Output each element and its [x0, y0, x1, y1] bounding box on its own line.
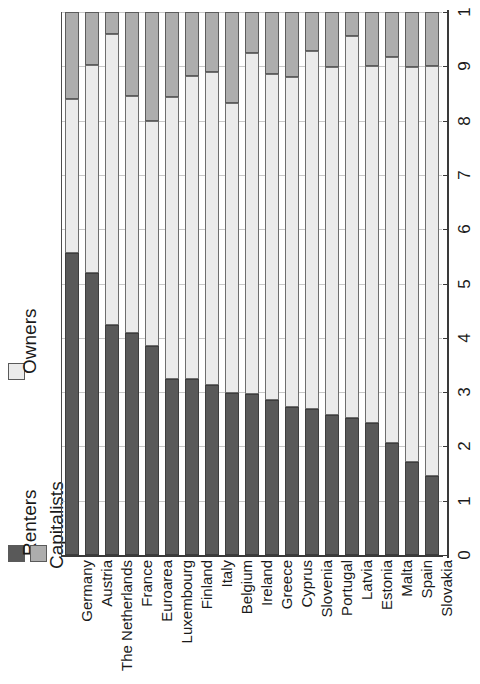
bar-segment-renters — [225, 393, 239, 555]
bar-segment-owners — [185, 76, 199, 379]
bar-latvia[interactable] — [345, 12, 359, 555]
value-axis-tick-label: 3 — [455, 372, 475, 412]
bar-segment-owners — [205, 72, 219, 385]
value-axis-tick — [443, 338, 448, 339]
value-axis-tick — [443, 501, 448, 502]
category-label-italy: Italy — [218, 560, 235, 684]
bar-segment-capitalists — [165, 12, 179, 97]
category-label-france: France — [138, 560, 155, 684]
bar-slovakia[interactable] — [425, 12, 439, 555]
value-axis-tick — [443, 392, 448, 393]
bar-the-netherlands[interactable] — [105, 12, 119, 555]
bar-portugal[interactable] — [325, 12, 339, 555]
bar-segment-capitalists — [185, 12, 199, 76]
legend-label-owners: Owners — [19, 224, 41, 374]
category-label-spain: Spain — [418, 560, 435, 684]
bar-segment-renters — [65, 253, 79, 555]
value-axis-tick — [443, 121, 448, 122]
bar-segment-owners — [165, 97, 179, 379]
category-label-slovenia: Slovenia — [318, 560, 335, 684]
bar-segment-renters — [125, 333, 139, 555]
bar-spain[interactable] — [405, 12, 419, 555]
bar-segment-capitalists — [125, 12, 139, 96]
bar-greece[interactable] — [265, 12, 279, 555]
bar-segment-capitalists — [105, 12, 119, 34]
category-label-belgium: Belgium — [238, 560, 255, 684]
bar-segment-owners — [305, 51, 319, 409]
bar-segment-capitalists — [325, 12, 339, 67]
category-label-luxembourg: Luxembourg — [178, 560, 195, 684]
bar-segment-capitalists — [305, 12, 319, 51]
value-axis-tick-label: 1 — [455, 481, 475, 521]
stacked-bar-chart: Renters Owners Capitalists 01234567891 G… — [0, 0, 480, 684]
category-label-finland: Finland — [198, 560, 215, 684]
bar-germany[interactable] — [65, 12, 79, 555]
bar-segment-renters — [385, 443, 399, 555]
value-axis-tick — [443, 555, 448, 556]
bar-segment-owners — [285, 77, 299, 407]
category-label-greece: Greece — [278, 560, 295, 684]
category-label-portugal: Portugal — [338, 560, 355, 684]
value-axis-tick — [443, 175, 448, 176]
bar-segment-owners — [345, 36, 359, 418]
bar-segment-renters — [285, 407, 299, 555]
bar-segment-owners — [245, 53, 259, 393]
category-label-slovakia: Slovakia — [438, 560, 455, 684]
value-axis-tick-label: 9 — [455, 46, 475, 86]
bar-segment-capitalists — [365, 12, 379, 66]
bar-segment-owners — [405, 67, 419, 461]
value-axis-tick-label: 0 — [455, 535, 475, 575]
bar-series-container — [62, 12, 442, 555]
bar-segment-renters — [205, 385, 219, 555]
bar-segment-owners — [325, 67, 339, 415]
value-axis-tick-label: 7 — [455, 155, 475, 195]
bar-segment-owners — [65, 99, 79, 253]
bar-segment-renters — [85, 273, 99, 555]
bar-segment-capitalists — [245, 12, 259, 53]
value-axis-tick-label: 4 — [455, 318, 475, 358]
value-axis-tick — [443, 284, 448, 285]
category-label-estonia: Estonia — [378, 560, 395, 684]
bar-segment-renters — [305, 409, 319, 555]
bar-segment-owners — [385, 57, 399, 443]
bar-segment-capitalists — [385, 12, 399, 57]
bar-segment-renters — [265, 400, 279, 555]
bar-segment-renters — [425, 476, 439, 555]
bar-segment-owners — [425, 66, 439, 476]
bar-segment-capitalists — [85, 12, 99, 65]
bar-segment-owners — [225, 103, 239, 394]
bar-slovenia[interactable] — [305, 12, 319, 555]
category-label-latvia: Latvia — [358, 560, 375, 684]
axis-left-line — [61, 12, 62, 556]
category-label-austria: Austria — [98, 560, 115, 684]
bar-cyprus[interactable] — [285, 12, 299, 555]
bar-segment-renters — [345, 418, 359, 555]
category-label-germany: Germany — [78, 560, 95, 684]
bar-italy[interactable] — [205, 12, 219, 555]
value-axis-tick — [443, 66, 448, 67]
value-axis-tick-label: 8 — [455, 101, 475, 141]
bar-malta[interactable] — [385, 12, 399, 555]
bar-austria[interactable] — [85, 12, 99, 555]
bar-segment-capitalists — [425, 12, 439, 66]
value-axis-tick-label: 5 — [455, 264, 475, 304]
bar-segment-owners — [145, 121, 159, 346]
bar-luxembourg[interactable] — [165, 12, 179, 555]
category-label-the-netherlands: The Netherlands — [118, 560, 135, 684]
bar-france[interactable] — [125, 12, 139, 555]
category-label-cyprus: Cyprus — [298, 560, 315, 684]
bar-segment-renters — [165, 379, 179, 555]
legend-entry-owners: Owners — [0, 255, 60, 405]
bar-segment-renters — [185, 379, 199, 555]
bar-segment-capitalists — [285, 12, 299, 77]
bar-segment-capitalists — [205, 12, 219, 72]
bar-ireland[interactable] — [245, 12, 259, 555]
bar-belgium[interactable] — [225, 12, 239, 555]
value-axis-tick — [443, 446, 448, 447]
bar-segment-capitalists — [225, 12, 239, 103]
bar-euroarea[interactable] — [145, 12, 159, 555]
bar-estonia[interactable] — [365, 12, 379, 555]
bar-finland[interactable] — [185, 12, 199, 555]
bar-segment-capitalists — [405, 12, 419, 67]
value-axis-tick-label: 2 — [455, 426, 475, 466]
